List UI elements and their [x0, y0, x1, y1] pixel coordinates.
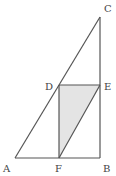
label-a: A: [2, 163, 11, 174]
label-f: F: [55, 163, 62, 174]
label-e: E: [104, 81, 111, 92]
label-c: C: [104, 3, 112, 14]
label-d: D: [45, 81, 53, 92]
label-b: B: [103, 163, 110, 174]
geometry-diagram: C D E A F B: [0, 0, 116, 176]
